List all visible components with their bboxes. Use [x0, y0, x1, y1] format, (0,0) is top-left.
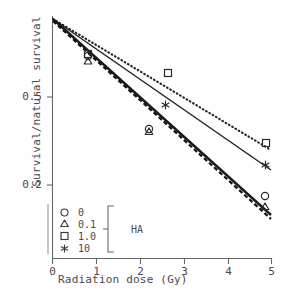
- data-point-circle-3: [261, 192, 268, 199]
- data-point-asterisk-1: [162, 101, 169, 109]
- fit-line-ha-10: [53, 19, 271, 170]
- x-tick-label-4: 4: [221, 265, 237, 278]
- legend-marker-circle: [61, 209, 68, 216]
- x-tick-label-5: 5: [264, 265, 280, 278]
- data-point-square-3: [263, 140, 270, 147]
- legend-bracket: [103, 206, 114, 252]
- legend-marker-asterisk: [61, 245, 67, 252]
- x-axis-label: Radiation dose (Gy): [58, 273, 188, 286]
- legend-label-0: 0: [78, 207, 84, 218]
- legend-label-10: 10: [78, 243, 90, 254]
- y-tick-marks: [47, 97, 53, 185]
- legend-marker-triangle: [61, 220, 69, 227]
- legend-markers: [61, 209, 69, 252]
- x-tick-label-3: 3: [177, 265, 193, 278]
- x-tick-label-1: 1: [89, 265, 105, 278]
- y-tick-label-1: 0.2: [8, 178, 42, 191]
- data-point-square-2: [165, 70, 172, 77]
- markers-ha-0: [84, 52, 268, 199]
- markers-ha-10: [162, 101, 269, 169]
- fit-line-ha-0: [53, 19, 271, 215]
- y-tick-label-0: 0.5: [8, 90, 42, 103]
- x-tick-marks: [53, 259, 272, 265]
- legend-label-1.0: 1.0: [78, 231, 96, 242]
- figure-container: Survival/natural survival Radiation dose…: [0, 0, 283, 297]
- legend-marker-square: [61, 233, 68, 240]
- x-tick-label-2: 2: [133, 265, 149, 278]
- legend-label-0.1: 0.1: [78, 219, 96, 230]
- legend-title: HA: [131, 224, 143, 235]
- x-tick-label-0: 0: [45, 265, 61, 278]
- fit-line-ha-1.0: [53, 19, 271, 150]
